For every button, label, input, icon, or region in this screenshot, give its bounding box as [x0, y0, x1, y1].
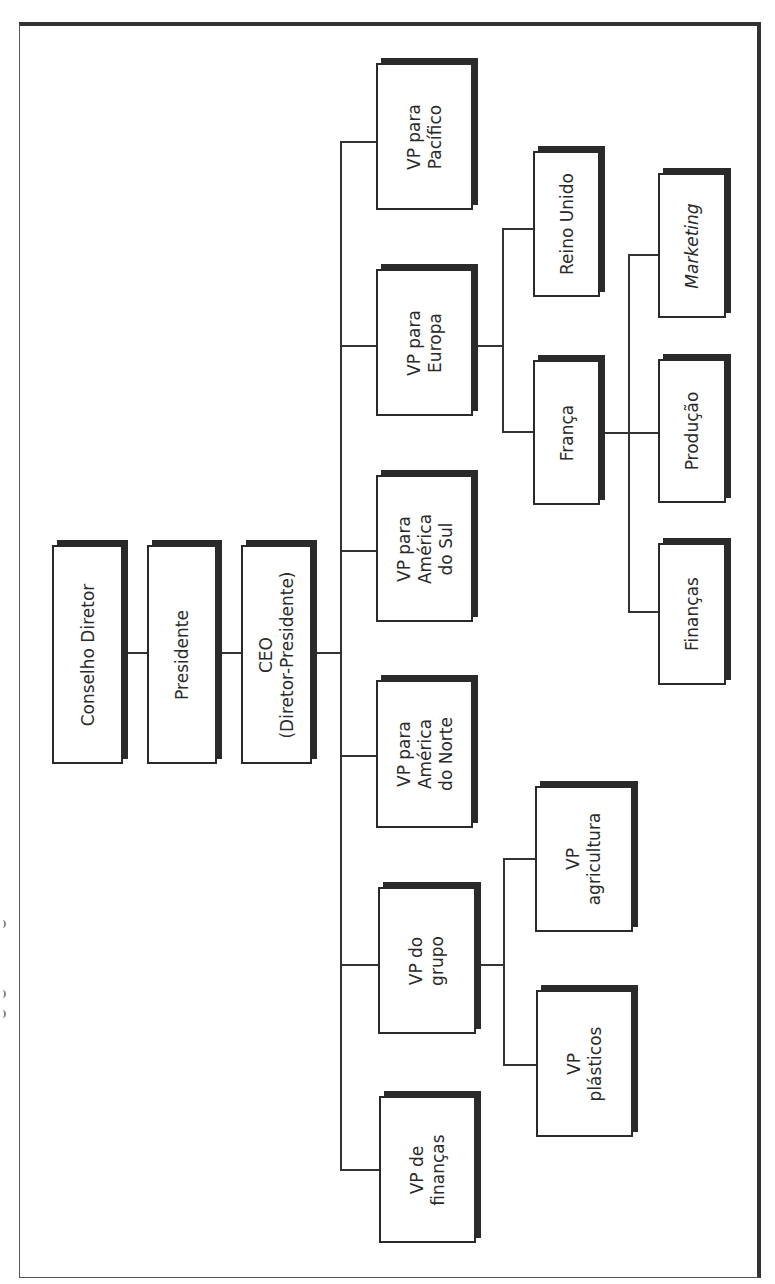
europe-branch-line [502, 228, 504, 432]
node-vp-europe: VP para Europa [376, 269, 473, 416]
node-label: VP para Pacífico [404, 104, 446, 170]
connector-europe [340, 345, 376, 347]
connector-europe-branch [473, 345, 502, 347]
node-vp-north-america: VP para América do Norte [376, 680, 473, 828]
connector-north-america [340, 755, 376, 757]
node-label: Finanças [682, 577, 703, 651]
node-marketing: Marketing [658, 173, 726, 318]
clipped-caption [0, 0, 8, 1284]
node-label: VP para América do Norte [393, 717, 456, 791]
connector-finance [340, 1169, 379, 1171]
node-label: VP plásticos [564, 1026, 606, 1101]
node-production: Produção [658, 359, 726, 503]
node-vp-south-america: VP para América do Sul [376, 475, 473, 622]
connector-ceo-trunk [312, 652, 340, 654]
connector-board-president [123, 652, 147, 654]
diagram-frame [19, 22, 761, 1278]
node-label: VP agricultura [563, 813, 605, 906]
node-vp-finance: VP de finanças [379, 1096, 476, 1243]
node-label: Presidente [172, 610, 193, 700]
node-vp-pacific: VP para Pacífico [376, 63, 473, 210]
connector-group-branch [476, 964, 503, 966]
connector-uk [502, 228, 533, 230]
connector-president-ceo [217, 652, 241, 654]
node-label: França [556, 404, 577, 461]
connector-pacific [340, 141, 376, 143]
connector-finance-fr [628, 611, 658, 613]
connector-south-america [340, 550, 376, 552]
node-label: Conselho Diretor [77, 583, 98, 726]
node-label: VP de finanças [407, 1134, 449, 1205]
node-president: Presidente [147, 545, 217, 764]
node-ceo: CEO (Diretor-Presidente) [241, 545, 312, 764]
france-branch-line [628, 254, 630, 612]
group-branch-line [503, 858, 505, 1065]
node-label: Produção [682, 392, 703, 471]
node-label: VP para América do Sul [393, 513, 456, 583]
connector-agriculture [503, 858, 535, 860]
node-label: CEO (Diretor-Presidente) [256, 571, 298, 738]
node-label: VP para Europa [404, 310, 446, 376]
node-vp-agriculture: VP agricultura [535, 786, 633, 932]
node-vp-group: VP do grupo [378, 887, 476, 1034]
connector-group [340, 964, 378, 966]
node-label: VP do grupo [406, 936, 448, 986]
node-france: França [533, 360, 600, 505]
node-board: Conselho Diretor [52, 545, 123, 764]
node-label: Marketing [682, 203, 703, 288]
node-label: Reino Unido [556, 173, 577, 275]
connector-marketing [628, 254, 658, 256]
node-uk: Reino Unido [533, 151, 600, 297]
trunk-line [340, 141, 342, 1170]
connector-france [502, 431, 533, 433]
node-vp-plastics: VP plásticos [536, 990, 633, 1137]
node-finance-fr: Finanças [658, 543, 726, 685]
connector-plastics [503, 1064, 536, 1066]
